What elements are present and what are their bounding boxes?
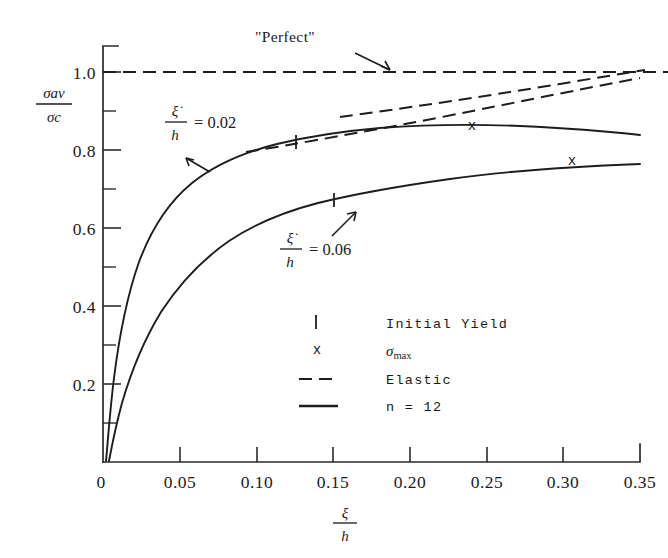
svg-text:σav: σav — [43, 85, 65, 101]
legend-label-elastic: Elastic — [386, 373, 452, 388]
annotation-rate-002-value: = 0.02 — [194, 113, 236, 132]
x-tick-label: 0 — [96, 472, 105, 492]
x-axis-line — [103, 444, 640, 462]
svg-text:h: h — [286, 254, 294, 270]
figure-container: 1.0 0.8 0.6 0.4 0.2 0 0.05 0.10 0.15 0.2… — [0, 0, 668, 558]
sigma-max-marker: x — [468, 118, 476, 134]
x-tick-label: 0.10 — [241, 472, 274, 492]
x-tick-label: 0.05 — [164, 472, 197, 492]
legend-label-initial-yield: Initial Yield — [386, 317, 508, 332]
x-tick-label: 0.35 — [624, 472, 657, 492]
y-tick-label: 0.8 — [73, 141, 96, 161]
annotation-rate-002-numerator: ξ̇ — [172, 103, 183, 119]
x-tick-label: 0.30 — [547, 472, 580, 492]
annotation-rate-006-value: = 0.06 — [309, 240, 351, 259]
x-tick-label: 0.15 — [317, 472, 350, 492]
x-axis-title-denominator: h — [341, 528, 349, 544]
annotation-rate-006-leader — [332, 212, 356, 236]
svg-text:ξ̇: ξ̇ — [287, 230, 298, 246]
svg-text:h: h — [341, 528, 349, 544]
svg-text:h: h — [171, 127, 179, 143]
annotation-rate-006: ξ̇ h = 0.06 — [280, 212, 356, 270]
legend-label-sigma-max: σmax — [386, 343, 412, 361]
y-axis-line — [103, 46, 118, 462]
legend: Initial Yield x σmax Elastic n = 12 — [299, 315, 508, 415]
y-axis-title-denominator: σc — [47, 109, 61, 125]
y-axis-title-numerator: σav — [43, 85, 65, 101]
series-elastic-006 — [246, 78, 640, 152]
series-n12-006 — [109, 164, 640, 461]
y-major-ticks — [103, 72, 121, 384]
sigma-max-marker: x — [568, 153, 576, 169]
y-axis-title: σav σc — [36, 85, 72, 125]
series-n12-002 — [106, 125, 640, 461]
annotation-rate-006-denominator: h — [286, 254, 294, 270]
x-tick-label: 0.20 — [394, 472, 427, 492]
y-tick-labels: 1.0 0.8 0.6 0.4 0.2 — [73, 63, 96, 395]
annotation-rate-002-leader — [186, 158, 210, 172]
x-tick-label: 0.25 — [471, 472, 504, 492]
legend-symbol-x-mark: x — [313, 342, 321, 358]
svg-text:σc: σc — [47, 109, 61, 125]
axes-group — [103, 46, 640, 462]
series-elastic-002 — [340, 70, 645, 117]
y-tick-label: 0.6 — [73, 219, 96, 239]
chart-canvas: 1.0 0.8 0.6 0.4 0.2 0 0.05 0.10 0.15 0.2… — [0, 0, 668, 558]
svg-text:ξ: ξ — [342, 505, 349, 521]
annotation-rate-002-denominator: h — [171, 127, 179, 143]
x-axis-title: ξ h — [333, 505, 357, 544]
y-tick-label: 1.0 — [73, 63, 96, 83]
svg-text:ξ̇: ξ̇ — [172, 103, 183, 119]
y-tick-label: 0.2 — [73, 375, 96, 395]
x-major-ticks — [180, 447, 563, 462]
annotation-perfect: "Perfect" — [255, 28, 390, 70]
x-tick-labels: 0 0.05 0.10 0.15 0.20 0.25 0.30 0.35 — [96, 472, 656, 492]
annotation-rate-006-numerator: ξ̇ — [287, 230, 298, 246]
legend-label-n12: n = 12 — [386, 400, 442, 415]
y-tick-label: 0.4 — [73, 297, 96, 317]
annotation-perfect-text: "Perfect" — [255, 28, 315, 45]
x-axis-title-numerator: ξ — [342, 505, 349, 521]
marker-group-initial-yield — [296, 135, 334, 207]
